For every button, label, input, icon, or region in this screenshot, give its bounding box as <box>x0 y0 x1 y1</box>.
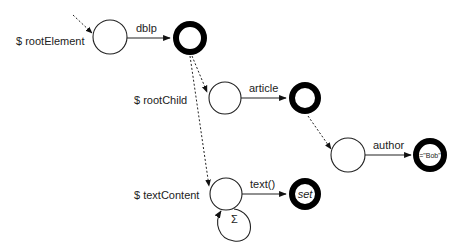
label-root-element: $ rootElement <box>16 35 84 47</box>
label-text-content: $ textContent <box>134 189 199 201</box>
edge-label-dblp: dblp <box>136 22 157 34</box>
value-bob: ="Bob" <box>419 152 441 159</box>
state-text-content <box>210 178 242 210</box>
dotted-edge-article-author <box>308 116 331 149</box>
state-root-child <box>209 82 241 114</box>
edge-label-text: text() <box>250 178 275 190</box>
label-root-child: $ rootChild <box>134 94 187 106</box>
state-author <box>331 138 365 172</box>
state-dblp-final <box>176 24 204 52</box>
edge-label-sigma: Σ <box>231 213 238 225</box>
state-root-element <box>93 20 127 54</box>
edge-label-author: author <box>373 139 405 151</box>
automaton-diagram: $ rootElement dblp $ rootChild article a… <box>0 0 462 248</box>
dotted-edge-dblp-rootchild <box>192 56 207 92</box>
state-article-final <box>292 85 318 111</box>
dotted-edge-dblp-textcontent <box>190 56 209 186</box>
initial-arrow <box>73 15 92 33</box>
value-set: set <box>298 188 314 200</box>
edge-label-article: article <box>249 82 278 94</box>
